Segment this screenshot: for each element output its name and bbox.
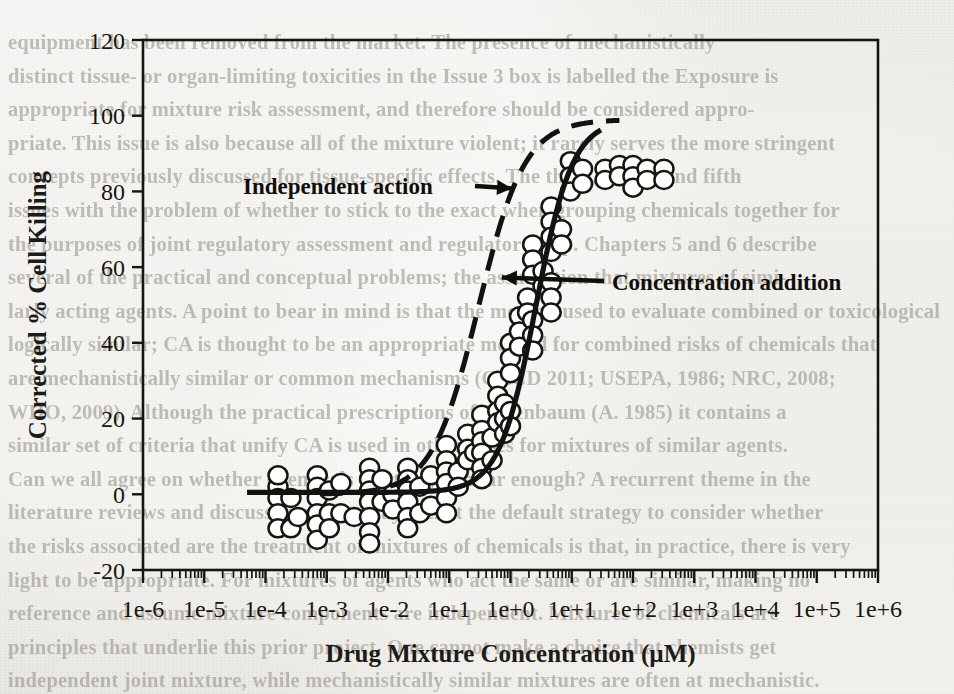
x-tick-label: 1e-6 [122,596,165,622]
scatter-point [269,466,288,484]
y-tick-label: 120 [89,28,125,54]
scatter-point [552,235,571,253]
x-tick-label: 1e-1 [428,596,471,622]
chart-figure: -200204060801001201e-61e-51e-41e-31e-21e… [0,0,954,694]
x-axis-title: Drug Mixture Concentration (µM) [325,640,695,668]
chart-svg: -200204060801001201e-61e-51e-41e-31e-21e… [0,0,954,694]
independent-action-label: Independent action [243,174,433,199]
x-tick-label: 1e+3 [670,596,718,622]
y-tick-label: -20 [93,558,125,584]
x-tick-label: 1e+6 [854,596,902,622]
y-tick-label: 40 [101,330,125,356]
x-tick-label: 1e+1 [548,596,596,622]
x-tick-label: 1e+0 [486,596,534,622]
y-tick-label: 100 [89,103,125,129]
scatter-point [437,504,456,522]
x-tick-label: 1e+5 [793,596,841,622]
scatter-point [331,474,350,492]
x-tick-label: 1e+4 [731,596,779,622]
x-tick-label: 1e-2 [367,596,410,622]
y-tick-label: 80 [101,179,125,205]
scatter-point [360,535,379,553]
x-tick-label: 1e+2 [609,596,657,622]
y-tick-label: 20 [101,406,125,432]
x-tick-label: 1e-4 [244,596,287,622]
scatter-point [542,304,561,322]
chart-axes [132,40,878,583]
y-tick-label: 60 [101,255,125,281]
scatter-point [573,175,592,193]
x-tick-label: 1e-5 [183,596,226,622]
scatter-point [289,508,308,526]
y-tick-label: 0 [113,482,125,508]
x-tick-label: 1e-3 [305,596,348,622]
chart-tick-labels: -200204060801001201e-61e-51e-41e-31e-21e… [89,28,902,623]
concentration-addition-label: Concentration addition [612,270,842,295]
scatter-point [501,364,520,382]
scatter-point [654,171,673,189]
y-axis-title: Corrected % Cell Killing [24,170,51,439]
